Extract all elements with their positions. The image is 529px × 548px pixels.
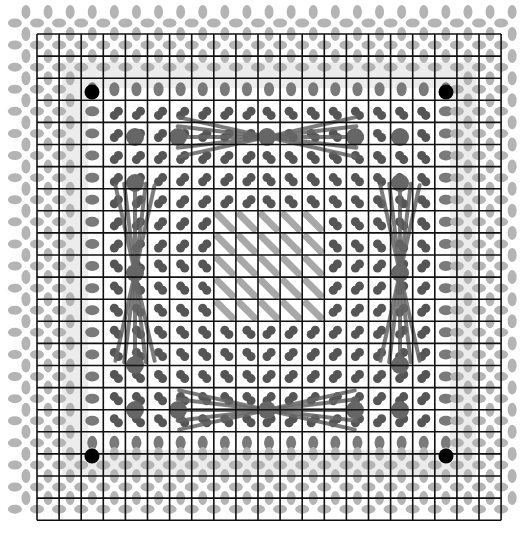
glyph-inner [373,396,382,405]
glyph-inner [373,418,382,427]
glyph-outer [273,18,287,27]
glyph-inner [180,308,189,317]
glyph-outer [185,18,199,27]
glyph-outer [508,469,517,483]
diagonal-stroke [240,215,254,229]
glyph-inner [114,308,123,317]
glyph-outer [508,359,517,373]
mesh-diagram [0,0,529,548]
glyph-inner [158,107,167,116]
glyph-outer [428,18,442,27]
glyph-inner [202,107,211,116]
glyph-ring [109,82,119,96]
glyph-inner [329,264,338,273]
glyph-outer [21,160,30,174]
glyph-outer [198,5,207,19]
glyph-inner [307,195,316,204]
glyph-inner [158,129,167,138]
glyph-outer [486,5,495,19]
glyph-inner [329,374,338,383]
glyph-inner [373,151,382,160]
glyph-outer [331,5,340,19]
glyph-inner [307,374,316,383]
glyph-inner [247,195,256,204]
glyph-ring [85,217,99,227]
node-dot [169,128,187,146]
glyph-inner [351,173,360,182]
diagonal-stroke [284,303,298,317]
glyph-outer [21,469,30,483]
glyph-outer [406,18,420,27]
glyph-inner [158,374,167,383]
diagonal-stroke [218,237,232,251]
glyph-inner [329,173,338,182]
glyph-outer [8,328,22,337]
glyph-ring [419,82,429,96]
glyph-inner [307,352,316,361]
glyph-inner [263,418,272,427]
glyph-inner [373,330,382,339]
glyph-outer [21,115,30,129]
mesh-figure [0,0,529,548]
glyph-outer [508,27,517,41]
glyph-inner [263,195,272,204]
glyph-inner [285,374,294,383]
glyph-inner [136,107,145,116]
glyph-inner [114,173,123,182]
glyph-outer [21,491,30,505]
glyph-ring [85,416,99,426]
glyph-outer [441,5,450,19]
glyph-outer [508,138,517,152]
node-dot [258,128,276,146]
glyph-inner [285,195,294,204]
glyph-outer [8,505,22,514]
glyph-outer [154,5,163,19]
glyph-inner [158,308,167,317]
glyph-inner [329,286,338,295]
glyph-outer [242,5,251,19]
glyph-inner [329,352,338,361]
glyph-inner [224,173,233,182]
glyph-inner [247,418,256,427]
glyph-inner [180,330,189,339]
diagonal-stroke [262,259,276,273]
glyph-inner [417,374,426,383]
glyph-inner [373,195,382,204]
diagonal-stroke [284,259,298,273]
diagonal-stroke [218,281,232,295]
glyph-inner [263,107,272,116]
glyph-inner [417,107,426,116]
glyph-inner [285,352,294,361]
glyph-outer [21,425,30,439]
glyph-inner [114,374,123,383]
diagonal-stroke [306,281,320,295]
glyph-inner [373,173,382,182]
glyph-ring [176,82,186,96]
glyph-ring [375,82,385,96]
glyph-inner [373,217,382,226]
glyph-outer [251,18,265,27]
glyph-inner [136,151,145,160]
glyph-inner [395,374,404,383]
glyph-ring [131,82,141,96]
glyph-inner [114,129,123,138]
glyph-outer [207,18,221,27]
glyph-outer [508,71,517,85]
glyph-inner [158,264,167,273]
glyph-inner [158,217,167,226]
glyph-ring [242,82,252,96]
glyph-inner [417,239,426,248]
glyph-inner [202,308,211,317]
glyph-ring [286,82,296,96]
glyph-ring [154,82,164,96]
glyph-inner [351,330,360,339]
anchor-point [439,449,454,464]
glyph-outer [8,195,22,204]
glyph-inner [285,418,294,427]
glyph-outer [8,18,22,27]
glyph-outer [21,403,30,417]
glyph-outer [353,5,362,19]
glyph-outer [220,5,229,19]
glyph-inner [351,217,360,226]
diagonal-stroke [240,259,254,273]
